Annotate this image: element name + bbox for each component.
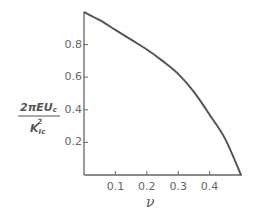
x-tick-label: 0.1 [107,180,125,193]
ylabel-numerator: 2πEUc [20,101,58,114]
chart: 0.20.40.60.8 0.10.20.30.4 2πEUc KIc2 ν [0,0,254,217]
y-tick-label: 0.4 [65,103,83,116]
ylabel-denominator: KIc2 [30,118,46,136]
x-axis-label: ν [146,194,155,210]
y-axis-label: 2πEUc KIc2 [18,101,60,136]
x-ticks: 0.10.20.30.4 [107,171,219,193]
y-tick-label: 0.6 [65,70,83,83]
x-tick-label: 0.3 [169,180,187,193]
y-tick-label: 0.2 [65,135,83,148]
x-tick-label: 0.2 [138,180,156,193]
x-tick-label: 0.4 [201,180,219,193]
data-curve [84,12,241,175]
y-tick-label: 0.8 [65,38,83,51]
